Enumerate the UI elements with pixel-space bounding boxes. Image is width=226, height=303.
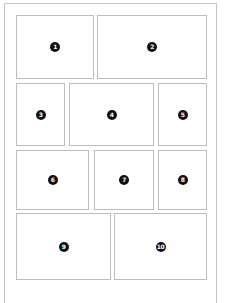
number-badge-2: 2 (147, 42, 157, 52)
panel-7: 7 (94, 150, 154, 210)
panel-3: 3 (16, 83, 65, 146)
number-badge-4: 4 (107, 110, 117, 120)
number-badge-6: 6 (48, 175, 58, 185)
panel-6: 6 (16, 150, 89, 210)
number-badge-7: 7 (119, 175, 129, 185)
panel-1: 1 (16, 15, 94, 79)
panel-5: 5 (158, 83, 207, 146)
number-badge-1: 1 (50, 42, 60, 52)
panel-9: 9 (16, 213, 111, 280)
panel-2: 2 (97, 15, 207, 79)
panel-4: 4 (69, 83, 154, 146)
number-badge-10: 10 (156, 242, 166, 252)
number-badge-3: 3 (36, 110, 46, 120)
panel-8: 8 (158, 150, 207, 210)
number-badge-8: 8 (178, 175, 188, 185)
number-badge-5: 5 (178, 110, 188, 120)
number-badge-9: 9 (59, 242, 69, 252)
panel-10: 10 (114, 213, 207, 280)
